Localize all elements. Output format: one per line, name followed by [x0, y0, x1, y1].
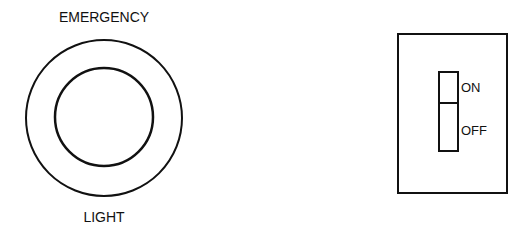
on-label: ON: [461, 80, 481, 95]
emergency-light[interactable]: EMERGENCY LIGHT: [26, 9, 182, 225]
toggle-switch[interactable]: [439, 72, 458, 151]
switch-plate: [398, 34, 507, 193]
emergency-label: EMERGENCY: [59, 9, 150, 25]
switch-body[interactable]: [439, 72, 458, 151]
light-label: LIGHT: [83, 209, 125, 225]
switch-panel: ON OFF: [398, 34, 507, 193]
diagram-canvas: EMERGENCY LIGHT ON OFF: [0, 0, 521, 227]
light-lens[interactable]: [55, 68, 153, 166]
off-label: OFF: [461, 123, 487, 138]
light-outer-ring: [26, 40, 182, 196]
